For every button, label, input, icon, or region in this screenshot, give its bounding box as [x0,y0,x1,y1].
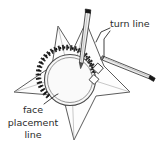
label-face-line2: placement [3,117,63,130]
illustration-canvas: turn line face placement line [0,0,168,155]
label-face-line1: face [3,104,63,117]
label-turn-line: turn line [110,18,150,29]
label-face-line3: line [3,129,63,142]
label-face-placement-line: face placement line [3,104,63,142]
